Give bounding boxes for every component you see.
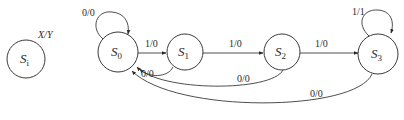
state-s0: S0 [98, 32, 138, 72]
edge-label-s0-s1: 1/0 [145, 38, 158, 49]
edge-label-s1-s0: 0/0 [141, 68, 154, 79]
edge-s3-s0 [132, 71, 372, 103]
state-s2: S2 [264, 34, 300, 70]
edge-s3-self [362, 10, 392, 36]
state-diagram: Si X/Y 0/0 1/0 1/0 1/0 1/1 0/0 0/0 0/0 [0, 0, 404, 120]
edge-label-s0-self: 0/0 [82, 7, 95, 18]
edge-label-s3-s0: 0/0 [310, 88, 323, 99]
legend-transition-label: X/Y [37, 29, 54, 40]
state-s1: S1 [167, 34, 203, 70]
edge-label-s1-s2: 1/0 [229, 38, 242, 49]
legend: Si X/Y [7, 29, 54, 78]
edge-label-s2-s3: 1/0 [315, 38, 328, 49]
state-s3: S3 [358, 34, 398, 74]
edge-s2-s0 [137, 67, 283, 86]
edge-label-s3-self: 1/1 [352, 6, 365, 17]
edge-label-s2-s0: 0/0 [237, 73, 250, 84]
